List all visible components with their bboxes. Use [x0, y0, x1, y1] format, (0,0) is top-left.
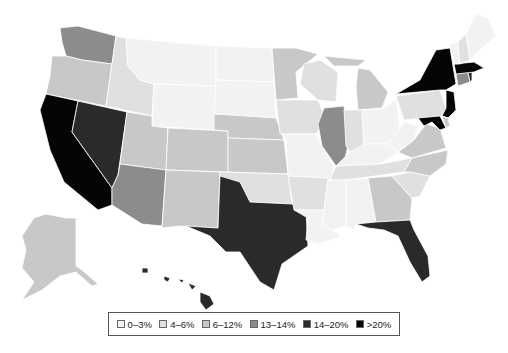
state-ks [228, 138, 288, 174]
state-fl [356, 220, 430, 282]
state-nd [216, 46, 274, 82]
legend-item-over-20: >20% [356, 319, 392, 330]
state-pa [396, 90, 446, 120]
state-wi [300, 60, 338, 102]
legend-label: 13–14% [261, 319, 296, 330]
legend-swatch [250, 320, 258, 328]
legend-item-0-3: 0–3% [117, 319, 152, 330]
legend-item-6-12: 6–12% [202, 319, 243, 330]
legend-label: 4–6% [170, 319, 194, 330]
legend-label: >20% [367, 319, 392, 330]
state-wy [152, 84, 216, 130]
legend-item-14-20: 14–20% [303, 319, 349, 330]
state-az [112, 164, 166, 226]
legend-label: 6–12% [213, 319, 243, 330]
state-nm [162, 170, 220, 228]
legend-swatch [159, 320, 167, 328]
state-ar [288, 176, 328, 210]
state-hi [142, 268, 214, 310]
legend-item-13-14: 13–14% [250, 319, 296, 330]
state-mt [126, 38, 216, 86]
map-legend: 0–3% 4–6% 6–12% 13–14% 14–20% >20% [108, 312, 400, 336]
legend-swatch [117, 320, 125, 328]
state-co [166, 128, 228, 172]
legend-label: 0–3% [128, 319, 152, 330]
us-choropleth-map [0, 0, 508, 310]
legend-item-4-6: 4–6% [159, 319, 194, 330]
state-ny [396, 48, 456, 94]
legend-swatch [202, 320, 210, 328]
legend-swatch [303, 320, 311, 328]
state-ak [22, 214, 98, 300]
state-me [466, 14, 496, 60]
legend-label: 14–20% [314, 319, 349, 330]
state-sd [214, 80, 276, 118]
legend-swatch [356, 320, 364, 328]
